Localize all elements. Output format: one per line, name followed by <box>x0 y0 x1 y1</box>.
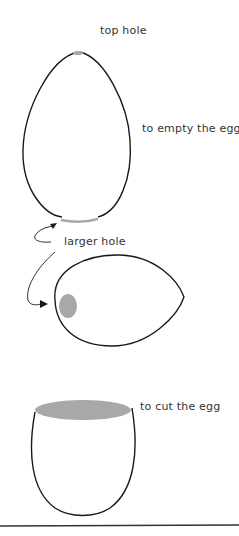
larger-hole-label: larger hole <box>64 235 126 248</box>
cut-opening <box>35 400 131 420</box>
top-hole-label: top hole <box>100 24 147 37</box>
side-egg <box>55 255 184 346</box>
top-hole <box>73 51 83 55</box>
upright-egg-outline <box>23 52 130 217</box>
arrows <box>28 223 57 308</box>
cup-outline <box>32 408 136 516</box>
bottom-hole <box>61 219 98 222</box>
bottom-rule <box>0 525 239 526</box>
cut-egg-cup <box>32 400 136 516</box>
empty-egg-label: to empty the egg <box>142 122 239 135</box>
upright-egg <box>23 51 130 222</box>
egg-diagram <box>0 0 239 536</box>
arrowhead-right <box>40 300 48 308</box>
larger-hole <box>59 294 77 318</box>
up-arrow <box>35 226 53 242</box>
cut-egg-label: to cut the egg <box>140 400 220 413</box>
down-arrow <box>28 252 55 305</box>
